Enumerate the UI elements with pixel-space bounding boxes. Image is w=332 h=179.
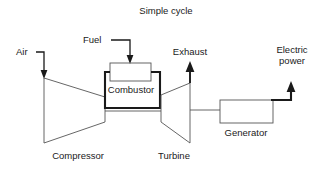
- combustor-inner-box: [110, 63, 151, 81]
- exhaust-label: Exhaust: [173, 46, 207, 57]
- compressor-shape: [44, 78, 105, 143]
- electric-power-label-line2: power: [279, 55, 305, 66]
- electric-power-label-line1: Electric: [276, 44, 307, 55]
- electric-power-arrow: [271, 81, 295, 100]
- shaft-line: [105, 110, 220, 111]
- combustor-label: Combustor: [108, 84, 154, 95]
- turbine-label: Turbine: [158, 150, 190, 161]
- generator-box: [220, 100, 273, 123]
- exhaust-outlet-arrow: [186, 61, 195, 83]
- fuel-label: Fuel: [83, 34, 101, 45]
- compressor-label: Compressor: [52, 150, 104, 161]
- diagram-canvas: Simple cycle: [0, 0, 332, 179]
- turbine-shape: [161, 83, 190, 143]
- air-inlet-arrow: [36, 52, 47, 79]
- fuel-inlet-arrow: [111, 40, 133, 64]
- air-label: Air: [16, 46, 28, 57]
- generator-label: Generator: [225, 127, 268, 138]
